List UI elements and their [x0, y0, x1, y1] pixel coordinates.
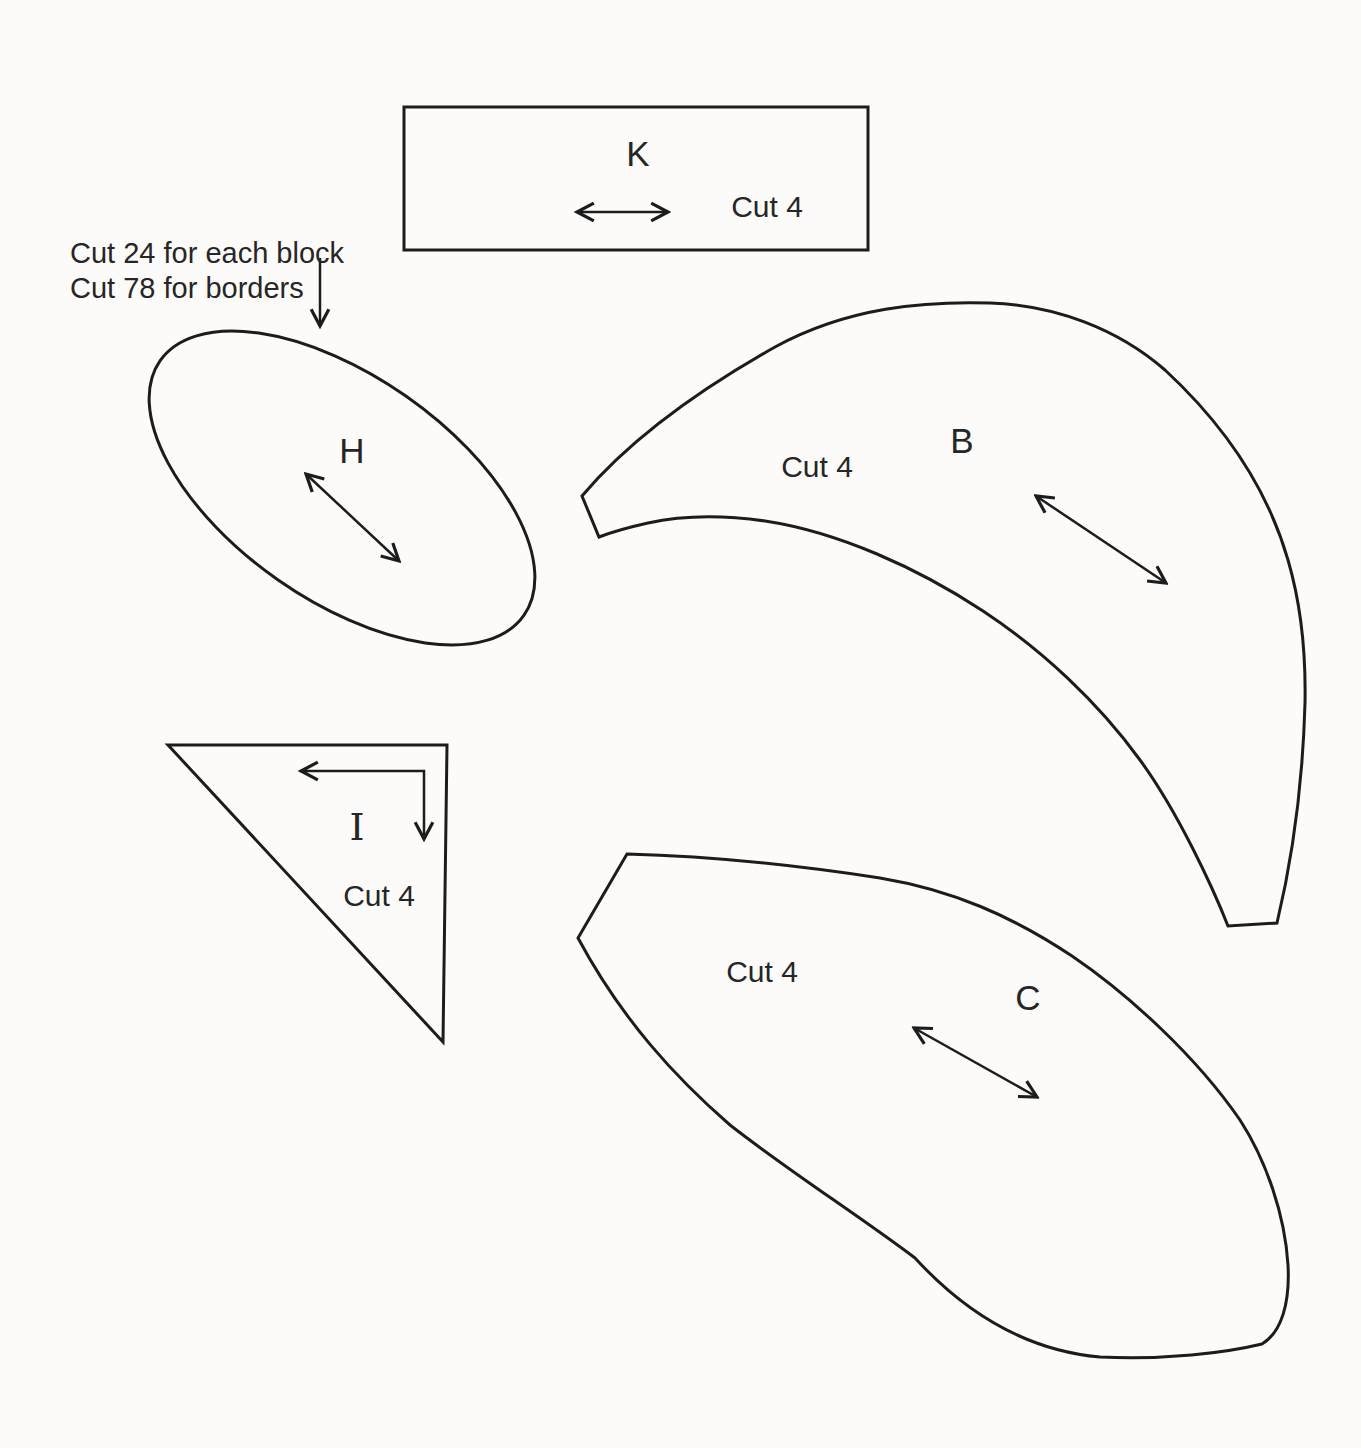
template-piece-c-outline [578, 854, 1288, 1358]
cutting-note-line-1: Cut 24 for each block [70, 237, 345, 269]
piece-i-cut-count: Cut 4 [343, 879, 415, 912]
piece-k-label: K [626, 134, 649, 173]
piece-c-label: C [1015, 978, 1040, 1017]
piece-k-cut-count: Cut 4 [731, 190, 803, 223]
grainline-arrow-h [306, 474, 399, 561]
grainline-arrow-c [914, 1028, 1037, 1097]
piece-b-label: B [950, 421, 973, 460]
pattern-page: Cut 24 for each block Cut 78 for borders… [0, 0, 1361, 1448]
labels: Cut 24 for each block Cut 78 for borders… [70, 134, 1041, 1017]
piece-b-cut-count: Cut 4 [781, 450, 853, 483]
piece-h-label: H [339, 431, 364, 470]
piece-i-label: I [349, 805, 364, 849]
grainline-arrow-b [1036, 496, 1166, 583]
template-piece-b-outline [582, 303, 1305, 926]
pattern-templates-drawing: Cut 24 for each block Cut 78 for borders… [0, 0, 1361, 1448]
cutting-note-line-2: Cut 78 for borders [70, 272, 304, 304]
template-piece-h-outline [96, 269, 588, 707]
piece-c-cut-count: Cut 4 [726, 955, 798, 988]
template-piece-k-outline [404, 107, 868, 250]
